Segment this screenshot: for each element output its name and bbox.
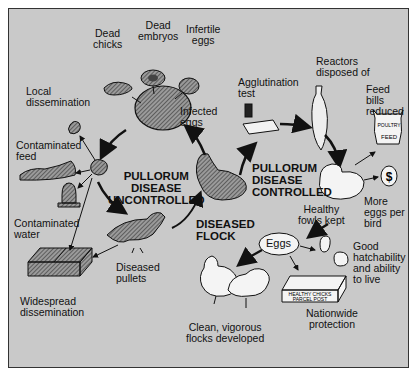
label-agglutination-test: Agglutination test [238,77,299,99]
parcel-text: PARCEL POST [293,296,327,302]
rooster-leg [214,296,216,304]
arrow-eggs-to-chicks [300,246,315,250]
dollar-sign: $ [386,170,393,184]
infertile-eggs-icon [179,78,199,94]
label-pullorum-controlled: PULLORUM DISEASE CONTROLLED [252,162,332,198]
arrow-hen-to-feed [355,152,375,165]
label-reactors-disposed: Reactors disposed of [316,56,370,78]
diseased-pullet-icon [107,213,165,243]
arrow-hen-to-dollar [364,177,378,180]
label-dead-embryos: Dead embryos [138,20,178,42]
arrow-to-feed [76,170,90,173]
label-dead-chicks: Dead chicks [93,28,122,50]
label-diseased-pullets: Diseased pullets [116,262,160,284]
label-local-dissemination: Local dissemination [26,86,90,108]
pullet-leg [140,248,143,253]
pullet-leg [132,248,134,253]
feed-bag-text: FEED [381,134,398,140]
label-widespread-dissemination: Widespread dissemination [20,296,84,318]
label-contaminated-water: Contaminated water [14,218,79,240]
arrow-eggs-to-parcel [290,256,298,270]
arrow-flock-to-eggs [187,127,205,155]
agglutination-bottle-icon [245,104,252,117]
contaminated-water-icon [58,183,80,207]
feed-bag-text: POULTRY [377,122,401,128]
chick-icon [320,236,330,252]
label-clean-flocks: Clean, vigorous flocks developed [186,322,264,344]
chick-icon [334,252,348,266]
label-contaminated-feed: Contaminated feed [16,140,81,162]
arrow-to-local [80,136,95,160]
infected-chick-icon [91,160,108,175]
arrow-test-to-reactor [280,124,308,127]
agglutination-card-icon [243,120,279,134]
embryo-inner-icon [148,75,158,82]
label-nationwide-protection: Nationwide protection [306,308,358,330]
label-feed-bills-reduced: Feed bills reduced [366,84,404,117]
label-good-hatchability: Good hatchability and ability to live [353,241,406,285]
label-diseased-flock: DISEASED FLOCK [196,218,255,242]
contaminated-feed-icon [20,161,76,180]
reactor-bird-icon [312,86,328,150]
label-eggs: Eggs [266,238,291,249]
widespread-crate-icon [28,248,92,276]
label-infertile-eggs: Infertile eggs [186,24,220,46]
arrow-pullet-to-crate [93,245,118,257]
label-infected-eggs: Infected eggs [180,106,217,128]
local-dissemination-chick-icon [69,121,81,133]
arrow-eggs-to-flock [240,250,262,264]
arrow-eggs-to-chick [102,130,126,156]
dead-chicks-icon [104,82,132,95]
label-more-eggs: More eggs per bird [364,196,405,229]
label-healthy-fowls-kept: Healthy fowls kept [298,204,345,226]
label-pullorum-uncontrolled: PULLORUM DISEASE UNCONTROLLED [108,170,204,206]
arrow-reactor-to-hen [325,135,339,165]
